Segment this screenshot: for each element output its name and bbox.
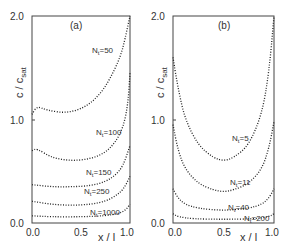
- panel-a-ylabel: c / csat: [13, 66, 28, 98]
- panel-b-xtick-1: 1.0: [265, 227, 279, 238]
- label-n200: Nt=200: [244, 214, 270, 224]
- label-n150: Nt=150: [86, 168, 112, 178]
- curve-n-t-250: [32, 176, 130, 205]
- panel-a-xtick-05: 0.5: [74, 227, 88, 238]
- panel-b-ytick-1: 1.0: [151, 115, 165, 126]
- panel-b-label: (b): [218, 20, 230, 31]
- svg-text:c / csat: c / csat: [154, 66, 169, 98]
- figure: (a) 2.0 1.0 0.0 0.0 0.5 1.0 x / l c / cs…: [0, 0, 287, 252]
- label-n100: Nt=100: [96, 128, 122, 138]
- panel-b-xtick-05: 0.5: [217, 227, 231, 238]
- curve-n-t-150: [32, 145, 130, 186]
- panel-b-ytick-0: 0.0: [151, 218, 165, 229]
- panel-a-curves: [32, 16, 130, 217]
- panel-b-ylabel: c / csat: [154, 66, 169, 98]
- panel-a-ytick-1: 1.0: [10, 115, 24, 126]
- curve-n-t-5: [173, 16, 274, 160]
- label-n1000: Nt=1000: [90, 208, 120, 218]
- curve-n-t-100: [32, 73, 130, 160]
- panel-a-ytick-2: 2.0: [10, 11, 24, 22]
- panel-b-ytick-2: 2.0: [151, 11, 165, 22]
- panel-a-label: (a): [70, 20, 82, 31]
- panel-a-frame: [32, 16, 130, 223]
- panel-a-xtick-1: 1.0: [120, 227, 134, 238]
- panel-b-xtick-0: 0.0: [168, 227, 182, 238]
- panel-b-xlabel: x / l: [240, 231, 257, 243]
- label-n5: Nt=5: [232, 134, 249, 144]
- panel-a-xtick-0: 0.0: [26, 227, 40, 238]
- panel-b: (b) 2.0 1.0 0.0 0.0 0.5 1.0 x / l c / cs…: [151, 11, 279, 243]
- label-n250: Nt=250: [84, 187, 110, 197]
- panel-b-curves: [173, 16, 274, 219]
- panel-a-xlabel: x / l: [98, 231, 115, 243]
- svg-text:c / csat: c / csat: [13, 66, 28, 98]
- label-n40: Nt=40: [228, 203, 250, 213]
- label-n11: Nt=11: [230, 178, 251, 188]
- curve-n-t-11: [173, 122, 274, 192]
- panel-a: (a) 2.0 1.0 0.0 0.0 0.5 1.0 x / l c / cs…: [10, 11, 134, 243]
- panel-a-ytick-0: 0.0: [10, 218, 24, 229]
- label-n50: Nt=50: [92, 46, 114, 56]
